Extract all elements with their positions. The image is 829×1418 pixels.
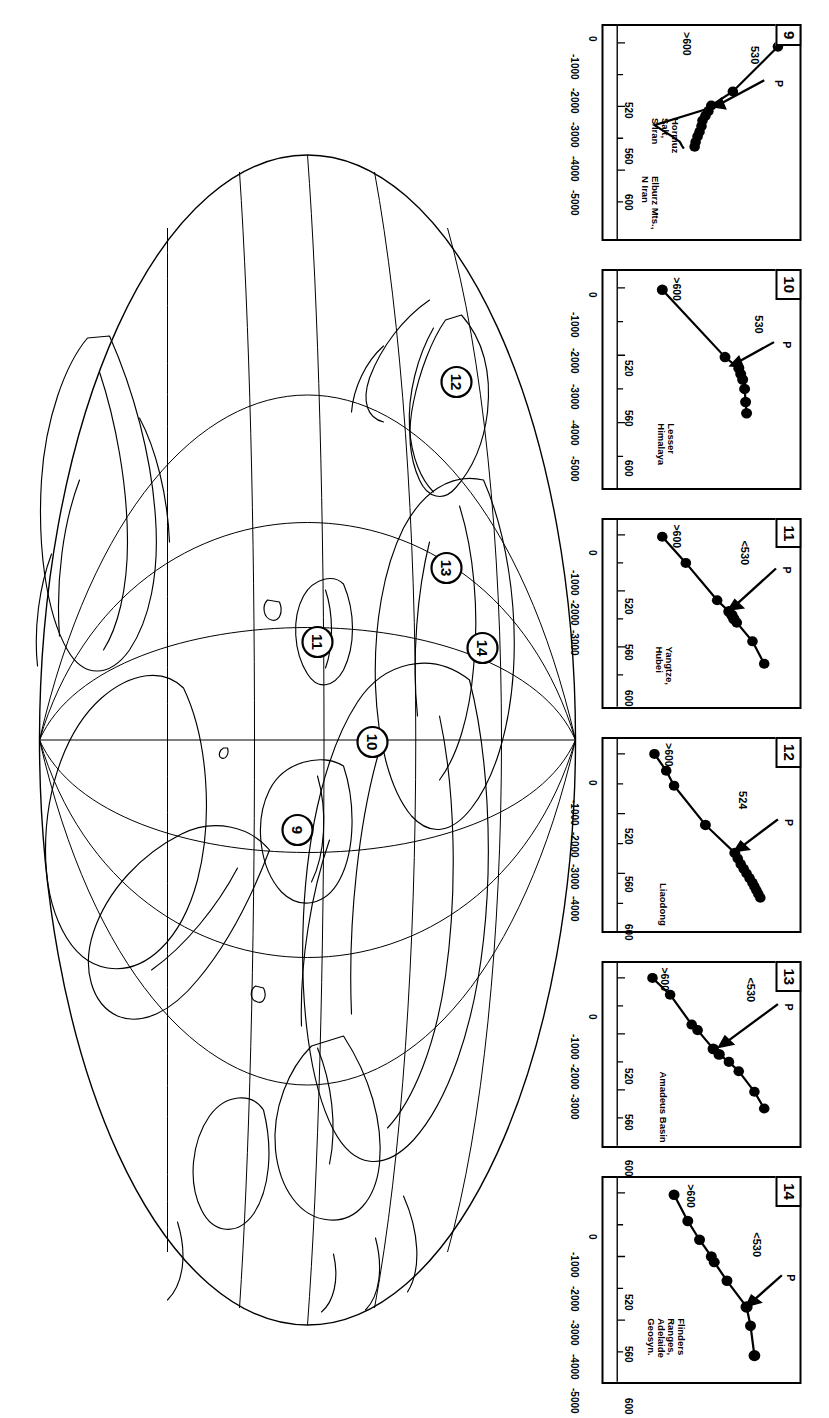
panel-9-ytick-2: -2000: [568, 88, 579, 114]
panel-12-xtick-2: 520: [622, 828, 633, 845]
panel-10-age-annotation: 530: [751, 315, 763, 333]
panel-14-ytick-5: -5000: [568, 1388, 579, 1414]
panel-11-site-label: Yangtze, Hubei: [653, 646, 673, 685]
panel-10-arrow: [730, 342, 773, 366]
map-location-13[interactable]: 13: [431, 553, 461, 583]
panel-14-xtick-0: 600: [622, 1398, 633, 1415]
panel-9-arrow-label: P: [772, 80, 783, 87]
panel-number-badge: 9: [775, 24, 801, 46]
paleogeographic-map[interactable]: 9 10 11 12 13: [34, 150, 579, 1330]
panel-9-ytick-3: -3000: [568, 122, 579, 148]
panel-12-points: [649, 749, 765, 903]
panel-11-ytick-0: 0: [586, 550, 597, 556]
paleocontinent-outlines: [36, 300, 514, 1312]
panel-10-curve: [662, 290, 746, 414]
panel-13-xtick-1: 560: [622, 1114, 633, 1131]
panel-12-pre-label: >600: [662, 743, 673, 767]
panel-12-site-label: Liaodong: [657, 883, 667, 926]
panel-12-age-annotation: 524: [735, 791, 747, 809]
panel-12-arrow-label: P: [782, 819, 793, 826]
panel-14-ytick-4: -4000: [568, 1354, 579, 1380]
panel-10-arrow-label: P: [780, 341, 791, 348]
panel-14-arrow-label: P: [784, 1274, 795, 1281]
graticule-meridians: [39, 395, 575, 1085]
panel-13-xtick-2: 520: [622, 1068, 633, 1085]
panel-13-arrow-label: P: [782, 1003, 793, 1010]
panel-14-site-label: Flinders Ranges, Adelaide Geosyn.: [645, 1318, 685, 1382]
panel-9-ytick-1: -1000: [568, 54, 579, 80]
panel-9-arrow: [713, 80, 764, 108]
map-location-9-label: 9: [289, 826, 306, 834]
map-location-13-label: 13: [438, 560, 455, 577]
map-location-12[interactable]: 12: [441, 367, 471, 397]
panel-9-xtick-1: 560: [622, 148, 633, 165]
panel-10-ytick-0: 0: [586, 292, 597, 298]
panel-10-points: [656, 285, 751, 419]
panel-number-badge: 11: [775, 518, 801, 548]
panel-number-badge: 10: [775, 269, 801, 300]
panel-10-xtick-0: 600: [622, 460, 633, 477]
panel-11-xtick-1: 560: [622, 644, 633, 661]
panel-14-xtick-1: 560: [622, 1346, 633, 1363]
panel-number-badge: 14: [775, 1176, 801, 1207]
panel-number-badge: 12: [775, 737, 801, 768]
panel-13-xtick-0: 600: [622, 1160, 633, 1177]
panel-14-pre-label: >600: [684, 1184, 695, 1208]
panel-11-arrow-label: P: [780, 566, 791, 573]
map-location-14[interactable]: 14: [467, 633, 497, 663]
panel-13-arrow: [719, 1004, 778, 1047]
panel-11-age-annotation: <530: [737, 540, 749, 565]
panel-9-ytick-0: 0: [586, 36, 597, 42]
map-location-12-label: 12: [448, 374, 465, 391]
map-location-11-label: 11: [309, 634, 326, 650]
panel-11-xtick-2: 520: [622, 598, 633, 615]
panel-9-xtick-2: 520: [622, 102, 633, 119]
panel-13-ytick-0: 0: [586, 1014, 597, 1020]
panel-9-site-label: Elburz Mts., N Iran: [639, 176, 659, 229]
panel-11-xtick-0: 600: [622, 690, 633, 707]
map-location-10[interactable]: 10: [357, 727, 387, 757]
panel-12-arrow: [734, 819, 777, 851]
map-location-9[interactable]: 9: [282, 815, 312, 845]
panel-10-xtick-1: 560: [622, 410, 633, 427]
panel-9-xtick-0: 600: [622, 194, 633, 211]
panel-10-pre-label: >600: [670, 277, 681, 301]
figure-rotator: 9: [0, 0, 829, 1418]
panel-12-xtick-1: 560: [622, 876, 633, 893]
age-tick-band: 600 560 520 600 560 520 600 560 520 600 …: [611, 24, 633, 1384]
panel-13-age-annotation: <530: [743, 977, 755, 1002]
panel-13-pre-label: >600: [658, 967, 669, 991]
panel-9-age-annotation: 530: [747, 46, 759, 64]
map-location-14-label: 14: [474, 640, 491, 657]
panel-10-xtick-2: 520: [622, 360, 633, 377]
panel-9-pre-label: >600: [680, 32, 691, 56]
map-location-10-label: 10: [364, 734, 381, 751]
panel-12-xtick-0: 600: [622, 924, 633, 941]
panel-11-pre-label: >600: [670, 524, 681, 548]
globe-svg: 9 10 11 12 13: [34, 150, 579, 1330]
panel-9-secondary-site-label: Hormuz Salt, S Iran: [649, 118, 679, 153]
panel-12-ytick-0: 0: [586, 780, 597, 786]
panel-13-site-label: Amadeus Basin: [657, 1071, 667, 1142]
panel-11-arrow: [728, 569, 775, 610]
panel-number-badge: 13: [775, 961, 801, 992]
panel-14-age-annotation: <530: [749, 1232, 761, 1257]
panel-14-xtick-2: 520: [622, 1294, 633, 1311]
panel-14-ytick-0: 0: [586, 1234, 597, 1240]
map-location-11[interactable]: 11: [302, 627, 332, 657]
panel-10-site-label: Lesser Himalaya: [655, 423, 675, 465]
panel-14-arrow: [746, 1275, 781, 1306]
